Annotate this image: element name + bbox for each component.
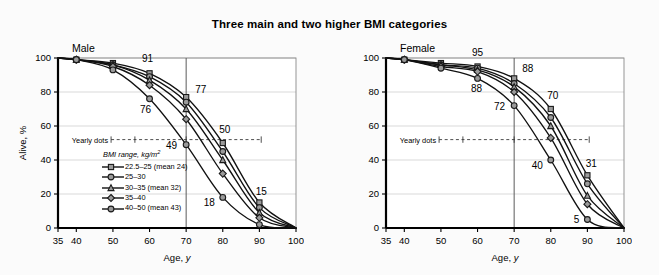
panel-title-male: Male xyxy=(72,42,95,54)
legend-item-label: 22.5–25 (mean 24) xyxy=(124,162,187,172)
figure-root: Three main and two higher BMI categories… xyxy=(0,0,659,275)
legend-rows: 22.5–25 (mean 24)25–3030–35 (mean 32)35–… xyxy=(102,162,187,214)
data-point-marker xyxy=(110,67,116,73)
data-point-marker xyxy=(220,149,226,155)
y-tick-label: 80 xyxy=(368,86,379,97)
data-label: 70 xyxy=(547,90,559,101)
data-point-marker xyxy=(256,222,262,228)
legend-marker-35-40 xyxy=(102,193,124,203)
x-tick-label: 100 xyxy=(616,235,632,246)
legend-marker-40-50 xyxy=(102,204,124,214)
data-label: 88 xyxy=(522,63,534,74)
x-tick-label: 70 xyxy=(181,235,192,246)
y-axis-label: Alive, % xyxy=(17,125,28,160)
x-tick-label: 70 xyxy=(509,235,520,246)
data-point-marker xyxy=(548,157,554,163)
x-tick-label: 50 xyxy=(436,235,447,246)
y-tick-label: 60 xyxy=(40,120,51,131)
data-label: 40 xyxy=(532,160,544,171)
y-tick-label: 100 xyxy=(363,52,379,63)
legend-marker-25-30-glyph xyxy=(108,175,114,181)
legend-item: 25–30 xyxy=(102,172,187,182)
y-tick-label: 60 xyxy=(368,120,379,131)
legend-title: BMI range, kg/m2 xyxy=(102,147,187,161)
legend-item: 40–50 (mean 43) xyxy=(102,203,187,213)
data-point-marker xyxy=(511,103,517,109)
yearly-dots-label: Yearly dots xyxy=(400,136,437,145)
data-point-marker xyxy=(584,217,590,223)
legend-marker-35-40-glyph xyxy=(108,195,115,202)
x-tick-label: 100 xyxy=(288,235,304,246)
x-tick-label: 60 xyxy=(144,235,155,246)
x-tick-label: 35 xyxy=(381,235,392,246)
x-tick-label: 90 xyxy=(582,235,593,246)
y-tick-label: 100 xyxy=(35,52,51,63)
legend-item-label: 25–30 xyxy=(124,172,146,182)
data-point-marker xyxy=(73,57,79,63)
chart-panel-male: Male 02040608010035405060708090100Age, y… xyxy=(14,42,304,272)
legend-marker-30-35 xyxy=(102,183,124,193)
x-tick-label: 50 xyxy=(108,235,119,246)
legend-title-text: BMI range, kg/m xyxy=(103,150,157,159)
legend-item: 30–35 (mean 32) xyxy=(102,183,187,193)
page-title: Three main and two higher BMI categories xyxy=(0,18,659,30)
y-tick-label: 0 xyxy=(374,222,379,233)
data-point-marker xyxy=(584,181,590,187)
y-tick-label: 80 xyxy=(40,86,51,97)
data-label: 72 xyxy=(494,101,506,112)
x-axis-label: Age, y xyxy=(164,252,192,263)
y-tick-label: 0 xyxy=(46,222,51,233)
data-point-marker xyxy=(220,140,225,145)
legend-male: BMI range, kg/m2 22.5–25 (mean 24)25–303… xyxy=(102,147,187,214)
x-tick-label: 35 xyxy=(53,235,64,246)
x-tick-label: 60 xyxy=(472,235,483,246)
x-tick-label: 90 xyxy=(254,235,265,246)
legend-item: 22.5–25 (mean 24) xyxy=(102,162,187,172)
data-label: 76 xyxy=(140,104,152,115)
data-point-marker xyxy=(585,173,590,178)
data-point-marker xyxy=(401,57,407,63)
data-point-marker xyxy=(548,106,553,111)
y-tick-label: 40 xyxy=(368,154,379,165)
data-label: 18 xyxy=(204,197,216,208)
legend-marker-22.5-25 xyxy=(102,162,124,172)
legend-item-label: 35–40 xyxy=(124,193,146,203)
legend-title-sup: 2 xyxy=(157,149,160,155)
x-tick-label: 40 xyxy=(71,235,82,246)
legend-item: 35–40 xyxy=(102,193,187,203)
chart-panel-female: Female 02040608010035405060708090100Age,… xyxy=(342,42,632,272)
x-tick-label: 80 xyxy=(217,235,228,246)
data-point-marker xyxy=(220,195,226,201)
chart-svg-female: 02040608010035405060708090100Age, yYearl… xyxy=(342,42,632,272)
panel-title-female: Female xyxy=(400,42,435,54)
data-label: 77 xyxy=(195,84,207,95)
data-point-marker xyxy=(147,96,153,102)
data-point-marker xyxy=(183,99,189,105)
x-axis-label: Age, y xyxy=(492,252,520,263)
data-label: 15 xyxy=(256,186,268,197)
legend-item-label: 40–50 (mean 43) xyxy=(124,203,181,213)
data-label: 88 xyxy=(471,83,483,94)
x-tick-label: 40 xyxy=(399,235,410,246)
y-tick-label: 20 xyxy=(40,188,51,199)
data-point-marker xyxy=(438,65,444,71)
legend-marker-25-30 xyxy=(102,172,124,182)
data-point-marker xyxy=(548,115,554,121)
data-label: 95 xyxy=(472,47,484,58)
data-point-marker xyxy=(475,76,481,82)
yearly-dots-label: Yearly dots xyxy=(72,136,109,145)
y-tick-label: 20 xyxy=(368,188,379,199)
legend-item-label: 30–35 (mean 32) xyxy=(124,183,181,193)
legend-marker-22.5-25-glyph xyxy=(108,164,113,169)
y-tick-label: 40 xyxy=(40,154,51,165)
data-label: 91 xyxy=(142,53,154,64)
data-label: 50 xyxy=(219,124,231,135)
x-tick-label: 80 xyxy=(545,235,556,246)
legend-marker-40-50-glyph xyxy=(108,206,114,212)
data-label: 5 xyxy=(574,214,580,225)
data-label: 31 xyxy=(586,158,598,169)
legend-marker-30-35-glyph xyxy=(108,185,114,191)
